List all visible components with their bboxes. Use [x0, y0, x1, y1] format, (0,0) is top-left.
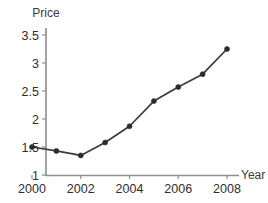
data-point-2008 — [225, 47, 230, 52]
x-tick-label: 2004 — [116, 182, 144, 196]
line-chart: 11.522.533.5 Price 20002002200420062008 … — [0, 0, 268, 203]
y-axis-group: 11.522.533.5 Price — [22, 6, 60, 183]
x-tick-label: 2008 — [213, 182, 241, 196]
x-tick-labels: 20002002200420062008 — [18, 182, 241, 196]
x-axis-group: 20002002200420062008 Year — [18, 168, 265, 196]
data-point-2003 — [103, 140, 108, 145]
x-axis-title: Year — [241, 168, 265, 182]
chart-canvas: 11.522.533.5 Price 20002002200420062008 … — [0, 0, 268, 203]
data-point-2004 — [127, 124, 132, 129]
price-series-markers — [30, 47, 230, 158]
x-tick-label: 2002 — [67, 182, 95, 196]
x-tick-label: 2000 — [18, 182, 46, 196]
y-tick-labels: 11.522.533.5 — [22, 29, 39, 183]
y-axis-title: Price — [32, 6, 60, 20]
data-point-2005 — [151, 99, 156, 104]
data-point-2006 — [176, 85, 181, 90]
y-tick-label: 3 — [32, 57, 39, 71]
data-point-2007 — [200, 72, 205, 77]
price-series-line — [32, 49, 227, 155]
data-point-2000 — [30, 145, 35, 150]
data-point-2001 — [54, 148, 59, 153]
x-tick-label: 2006 — [164, 182, 192, 196]
y-tick-label: 2.5 — [22, 85, 39, 99]
y-tick-label: 1 — [32, 169, 39, 183]
y-tick-label: 3.5 — [22, 29, 39, 43]
data-point-2002 — [78, 153, 83, 158]
plot-area — [30, 47, 230, 158]
y-tick-label: 2 — [32, 113, 39, 127]
